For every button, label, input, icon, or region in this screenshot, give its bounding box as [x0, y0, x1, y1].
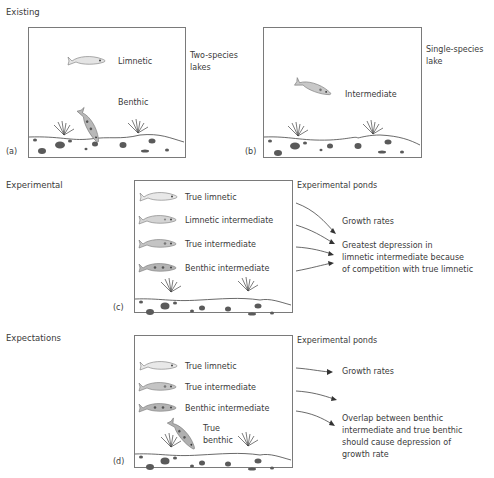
panel-c-result-growth: Growth rates: [342, 217, 394, 227]
fish-true-limnetic-icon: [140, 193, 177, 201]
fish-label-intermediate: Intermediate: [345, 90, 397, 100]
plant-icon: [161, 433, 181, 447]
fish-label-true-limnetic: True limnetic: [185, 362, 237, 372]
plant-icon: [238, 277, 258, 291]
fish-label-benthic-intermediate: Benthic intermediate: [185, 404, 269, 414]
fish-intermediate-icon: [295, 77, 333, 98]
panel-b-side-label-line1: Single-species: [426, 45, 483, 55]
fish-label-true-benthic-line2: benthic: [203, 436, 233, 446]
fish-label-limnetic: Limnetic: [118, 57, 152, 67]
fish-label-true-benthic-line1: True: [203, 424, 220, 434]
fish-label-limnetic-intermediate: Limnetic intermediate: [185, 216, 273, 226]
fish-benthic-intermediate-icon: [139, 264, 176, 272]
panel-d-tag: (d): [113, 457, 124, 467]
panel-b-sediment: [264, 135, 420, 156]
panel-d-arrows: [296, 368, 334, 424]
fish-limnetic-intermediate-icon: [139, 216, 176, 224]
panel-a-side-label-line2: lakes: [190, 63, 211, 73]
panel-c-tag: (c): [113, 303, 124, 313]
arrow: [296, 225, 333, 243]
plant-icon: [238, 432, 258, 446]
panel-c-side-label: Experimental ponds: [297, 181, 377, 191]
panel-a-tag: (a): [6, 147, 17, 157]
fish-label-true-intermediate: True intermediate: [185, 383, 256, 393]
panel-d-result-line2: intermediate and true benthic: [342, 426, 462, 436]
panel-c-result-line1: Greatest depression in: [342, 241, 433, 251]
panel-d-side-label: Experimental ponds: [297, 336, 377, 346]
plant-icon: [161, 278, 181, 292]
fish-label-benthic: Benthic: [118, 98, 148, 108]
fish-true-intermediate-icon: [139, 383, 176, 391]
panel-c-sediment: [135, 298, 291, 315]
arrow: [296, 247, 332, 254]
panel-d-result-line1: Overlap between benthic: [342, 414, 443, 424]
panel-c-result-line3: of competition with true limnetic: [342, 265, 473, 275]
panel-a-side-label-line1: Two-species: [190, 51, 238, 61]
panel-d-result-line3: should cause depression of: [342, 438, 451, 448]
fish-label-true-intermediate: True intermediate: [185, 240, 256, 250]
plant-icon: [54, 121, 74, 135]
arrow: [296, 203, 334, 232]
panel-d-sediment: [135, 453, 291, 470]
plant-icon: [363, 120, 383, 134]
fish-label-true-limnetic: True limnetic: [185, 193, 237, 203]
arrow: [296, 411, 332, 424]
panel-b-side-label-line2: lake: [426, 57, 442, 67]
fish-benthic-icon: [77, 107, 102, 144]
plant-icon: [128, 119, 148, 133]
arrow: [296, 263, 332, 271]
panel-a-sediment: [29, 135, 184, 154]
panel-b-tag: (b): [245, 147, 256, 157]
fish-true-intermediate-icon: [139, 240, 176, 248]
panel-c-result-line2: limnetic intermediate because: [342, 253, 464, 263]
panel-d-result-growth: Growth rates: [342, 367, 394, 377]
arrow: [296, 391, 334, 399]
arrow: [296, 368, 330, 372]
fish-benthic-intermediate-icon: [139, 404, 176, 412]
panel-c-arrows: [296, 203, 334, 271]
panel-d-result-line4: growth rate: [342, 450, 389, 460]
fish-label-benthic-intermediate: Benthic intermediate: [185, 264, 269, 274]
fish-true-limnetic-icon: [140, 362, 177, 370]
plant-icon: [288, 122, 308, 136]
fish-limnetic-icon: [68, 57, 105, 65]
panel-c-arrowheads: [328, 228, 336, 266]
